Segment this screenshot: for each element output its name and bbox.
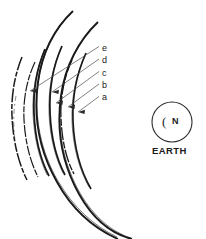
arc-label-d: d xyxy=(102,56,107,65)
arrowhead-d xyxy=(52,90,59,94)
earth-caption: EARTH xyxy=(152,146,187,156)
earth-north-label: N xyxy=(172,117,179,126)
arc-label-a: a xyxy=(102,93,107,102)
leader-line-b xyxy=(68,84,99,107)
arrowhead-b xyxy=(68,105,75,109)
arc-front-d-inner xyxy=(60,24,131,238)
arc-label-c: c xyxy=(102,69,107,78)
earth-crescent-glyph: ( xyxy=(162,115,166,128)
leader-line-a xyxy=(78,97,99,113)
arc-label-b: b xyxy=(102,81,107,90)
arc-front-mid xyxy=(73,53,91,189)
arc-group xyxy=(12,11,132,239)
arc-front-d xyxy=(59,22,132,239)
arc-label-e: e xyxy=(102,44,107,53)
arc-front-mid-inner xyxy=(72,56,89,187)
shock-front-diagram: e d c b a ( N EARTH xyxy=(0,0,206,239)
arrowhead-a xyxy=(78,110,85,114)
arc-front-b xyxy=(50,46,65,175)
